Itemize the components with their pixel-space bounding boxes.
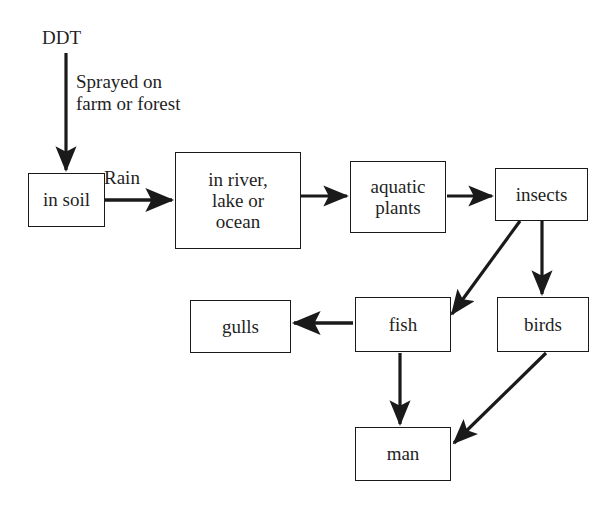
node-birds[interactable]: birds <box>497 297 589 352</box>
node-man-label: man <box>384 443 423 464</box>
label-ddt: DDT <box>42 27 81 49</box>
node-insects-label: insects <box>513 184 571 205</box>
node-fish-label: fish <box>386 314 421 335</box>
node-gulls[interactable]: gulls <box>190 300 291 353</box>
node-gulls-label: gulls <box>219 316 262 337</box>
node-in-soil-label: in soil <box>40 189 93 210</box>
node-in-river-lake-or-ocean-label: in river, lake or ocean <box>205 169 270 233</box>
label-rain: Rain <box>104 167 140 189</box>
node-aquatic-plants[interactable]: aquatic plants <box>350 161 446 233</box>
label-sprayed-on-farm-or-forest: Sprayed on farm or forest <box>76 71 180 115</box>
node-aquatic-plants-label: aquatic plants <box>368 176 429 219</box>
node-in-river-lake-or-ocean[interactable]: in river, lake or ocean <box>175 152 301 249</box>
ddt-food-chain-diagram: in soil in river, lake or ocean aquatic … <box>0 0 615 505</box>
node-man[interactable]: man <box>355 427 451 481</box>
edge-birds-to-man <box>454 353 546 443</box>
node-insects[interactable]: insects <box>495 168 588 221</box>
node-fish[interactable]: fish <box>355 297 451 352</box>
node-in-soil[interactable]: in soil <box>28 173 105 227</box>
node-birds-label: birds <box>521 314 565 335</box>
